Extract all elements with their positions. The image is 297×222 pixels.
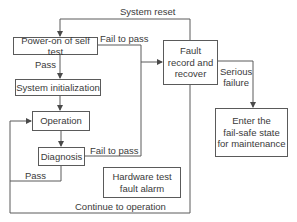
node-fail-safe-state: Enter the fail-safe state for maintenanc… (215, 108, 288, 157)
edge-label-serious-failure: Serious failure (220, 66, 252, 88)
node-diagnosis: Diagnosis (38, 147, 85, 166)
edge-label-system-reset: System reset (120, 6, 175, 17)
edge-label-power-fail: Fail to pass (100, 33, 149, 44)
node-operation: Operation (32, 111, 90, 131)
edge-label-continue: Continue to operation (75, 201, 166, 212)
edge-label-power-pass: Pass (35, 59, 56, 70)
node-system-initialization: System initialization (15, 79, 101, 96)
edge-label-diag-fail: Fail to pass (90, 145, 139, 156)
node-fault-record-recover: Fault record and recover (163, 40, 218, 85)
edge-label-diag-pass: Pass (25, 170, 46, 181)
node-power-on-self-test: Power-on of self test (13, 37, 98, 55)
node-hardware-test-fault-alarm: Hardware test fault alarm (103, 167, 181, 198)
